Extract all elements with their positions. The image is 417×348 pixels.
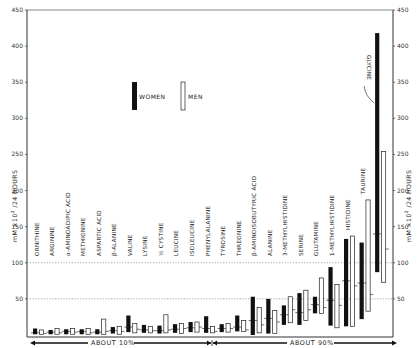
y-tick-left: 100 [12,259,24,266]
men-bar [86,329,90,335]
men-bar [39,330,43,334]
women-bar [111,327,115,334]
men-bar [242,321,246,332]
men-bar [257,308,261,333]
y-tick-right: 450 [397,6,409,13]
category-label: 1-METHYLHISTIDINE [329,194,335,256]
category-label: SERINE [298,234,304,256]
y-tick-left: 50 [15,295,23,302]
bar-group [187,322,203,332]
legend-men-label: MEN [188,93,203,100]
men-bar [117,326,121,334]
bar-group [218,323,234,332]
bars [31,33,389,335]
bar-group [124,316,140,333]
men-bar [179,323,183,333]
legend-women-label: WOMEN [139,93,166,100]
men-bar [350,236,354,326]
men-bar [288,297,292,323]
bar-group [264,299,280,334]
men-bar [226,323,230,332]
category-label: THREONINE [236,220,242,257]
category-label: LYSINE [142,235,148,256]
women-bar [220,324,224,332]
bar-group [171,323,187,333]
women-bar [297,293,301,325]
y-tick-right: 400 [397,42,409,49]
category-labels: ORNITHINEARGININEα-AMINOADIPIC ACIDMETHI… [34,55,375,257]
y-tick-right: 250 [397,150,409,157]
legend: WOMENMEN [132,82,203,110]
men-bar [148,326,152,333]
category-label: TAURINE [360,168,366,195]
men-bar [273,310,277,333]
women-bar [313,297,317,314]
bar-group [295,290,311,325]
category-label: ISOLEUCINE [189,219,195,256]
bar-group [202,316,218,333]
bar-group [93,319,109,334]
bar-group [373,33,389,282]
women-bar [282,305,286,325]
men-bar [133,323,137,332]
category-label: METHIONINE [80,217,86,256]
bar-group [31,329,47,335]
arrow-left-icon [30,341,35,346]
category-label: ARGININE [49,226,55,256]
y-tick-right: 350 [397,78,409,85]
category-label: PHENYLALANINE [205,206,211,256]
category-label: ALANINE [267,229,273,256]
category-label: GLUTAMINE [313,221,319,256]
men-bar [382,152,386,283]
group-annotations: ABOUT 10%ABOUT 90% [30,339,397,347]
category-label: ASPARTIC ACID [96,210,102,256]
y-tick-left: 300 [12,114,24,121]
arrow-right-icon [392,341,397,346]
men-bar [304,290,308,320]
women-bar [80,329,84,334]
men-bar [71,329,75,335]
bar-group [249,297,265,335]
women-bar [126,316,130,333]
y-tick-left: 450 [12,6,24,13]
women-bar [204,316,208,333]
women-bar [266,299,270,334]
men-bar [210,326,214,333]
y-tick-right: 300 [397,114,409,121]
bar-group [358,200,374,319]
category-label: ORNITHINE [34,222,40,256]
y-tick-right: 50 [397,295,405,302]
bar-group [62,329,78,335]
category-label: β-ALANINE [111,223,118,256]
category-label: β-AMINOISOBUTYRIC ACID [251,176,258,256]
category-label: 3-METHYLHISTIDINE [282,194,288,256]
amino-acid-excretion-chart: 5050100100150150200200250250300300350350… [0,0,417,348]
women-bar [157,326,161,334]
y-tick-right: 100 [397,259,409,266]
legend-men-swatch [181,82,185,110]
women-bar [142,325,146,333]
category-label: ½ CYSTINE [158,222,164,256]
men-bar [164,315,168,333]
category-label: HISTIDINE [345,199,351,230]
bar-group [140,325,156,333]
women-bar [33,329,37,335]
y-tick-left: 250 [12,150,24,157]
legend-women-swatch [132,82,137,110]
women-bar [344,239,348,326]
men-bar [335,284,339,327]
bar-group [155,315,171,334]
women-bar [328,267,332,326]
group-label-low: ABOUT 10% [91,339,135,347]
men-bar [102,319,106,334]
group-label-high: ABOUT 90% [290,339,334,347]
women-bar [95,329,99,334]
y-tick-left: 350 [12,78,24,85]
women-bar [189,322,193,332]
category-label: TYROSINE [220,225,226,257]
bar-group [280,297,296,325]
men-bar [319,278,323,313]
bar-group [326,267,342,328]
category-label: VALINE [127,234,133,256]
y-tick-left: 400 [12,42,24,49]
